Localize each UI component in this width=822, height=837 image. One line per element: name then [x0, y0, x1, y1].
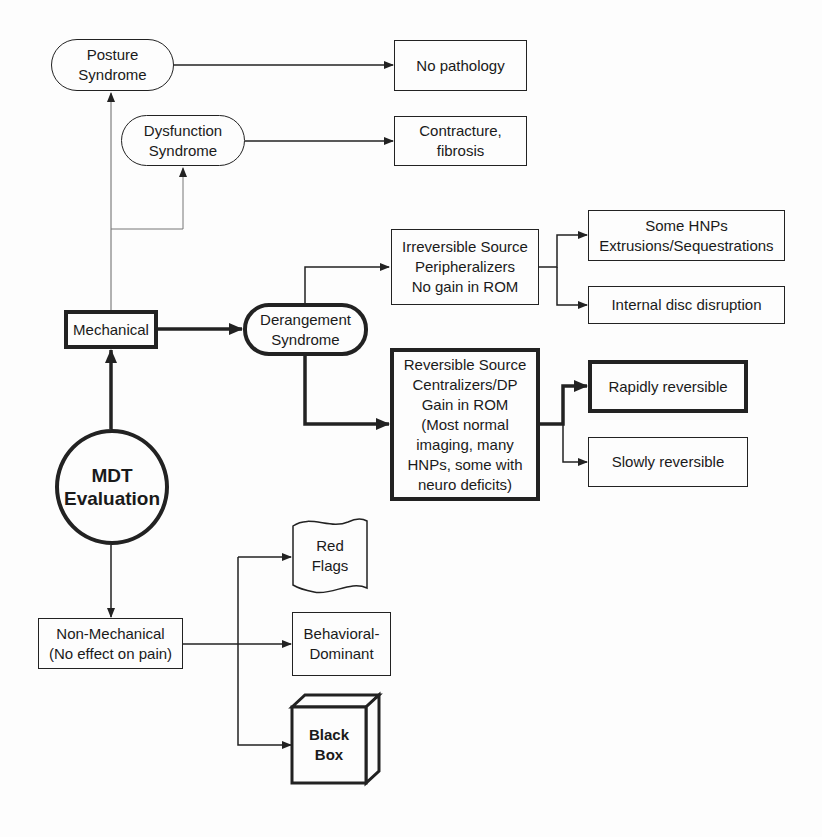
red-flags-node: Red Flags: [293, 522, 367, 590]
posture-syndrome-node: Posture Syndrome: [51, 39, 174, 91]
derangement-syndrome-node: Derangement Syndrome: [243, 303, 368, 356]
reversible-source-node: Reversible Source Centralizers/DP Gain i…: [390, 348, 540, 501]
mechanical-node: Mechanical: [64, 310, 158, 349]
irreversible-source-node: Irreversible Source Peripheralizers No g…: [391, 229, 539, 305]
slowly-reversible-node: Slowly reversible: [588, 437, 748, 487]
non-mechanical-node: Non-Mechanical (No effect on pain): [38, 618, 183, 669]
internal-disc-disruption-node: Internal disc disruption: [588, 286, 785, 324]
some-hnps-node: Some HNPs Extrusions/Sequestrations: [588, 210, 785, 261]
mdt-evaluation-node: MDT Evaluation: [55, 429, 169, 545]
dysfunction-syndrome-node: Dysfunction Syndrome: [121, 115, 245, 166]
contracture-fibrosis-node: Contracture, fibrosis: [394, 116, 527, 166]
no-pathology-node: No pathology: [394, 40, 527, 91]
behavioral-dominant-node: Behavioral- Dominant: [292, 612, 391, 676]
rapidly-reversible-node: Rapidly reversible: [588, 360, 748, 413]
black-box-node: Black Box: [292, 707, 366, 783]
